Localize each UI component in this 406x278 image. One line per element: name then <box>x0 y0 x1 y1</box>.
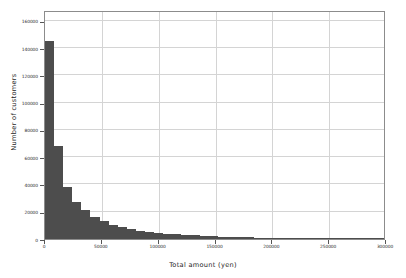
y-tick-label: 0 <box>35 238 38 243</box>
histogram-bar <box>209 236 218 239</box>
histogram-bar <box>81 210 90 239</box>
histogram-bar <box>318 238 327 239</box>
x-tick-label: 50000 <box>94 244 107 249</box>
histogram-figure: 0200004000060000800001000001200001400001… <box>0 0 406 278</box>
histogram-bar <box>218 237 227 239</box>
x-tick-label: 100000 <box>150 244 166 249</box>
histogram-bar <box>72 202 81 239</box>
y-tick-mark <box>40 76 44 77</box>
histogram-bar <box>345 238 354 239</box>
histogram-bar <box>181 235 190 239</box>
x-tick-label: 250000 <box>320 244 336 249</box>
x-axis-title: Total amount (yen) <box>0 261 406 269</box>
y-tick-label: 140000 <box>22 47 38 52</box>
histogram-bar <box>354 238 363 239</box>
y-tick-label: 40000 <box>25 183 38 188</box>
y-axis-title: Number of customers <box>10 52 18 172</box>
histogram-bar <box>263 238 272 239</box>
histogram-bar <box>336 238 345 239</box>
histogram-bar <box>100 221 109 239</box>
histogram-bar <box>300 238 309 239</box>
y-tick-label: 120000 <box>22 74 38 79</box>
histogram-bar <box>272 238 281 239</box>
y-tick-label: 100000 <box>22 101 38 106</box>
histogram-bar <box>45 41 54 239</box>
y-tick-label: 80000 <box>25 128 38 133</box>
histogram-bar <box>363 238 372 239</box>
x-tick-label: 300000 <box>377 244 393 249</box>
histogram-bar <box>154 233 163 239</box>
histogram-bar <box>254 238 263 239</box>
histogram-bar <box>281 238 290 239</box>
histogram-bar <box>163 234 172 239</box>
y-tick-label: 60000 <box>25 156 38 161</box>
y-tick-mark <box>40 22 44 23</box>
y-tick-mark <box>40 185 44 186</box>
histogram-bar <box>327 238 336 239</box>
histogram-bar <box>381 238 385 239</box>
y-tick-label: 160000 <box>22 19 38 24</box>
histogram-bar <box>236 237 245 239</box>
histogram-bar <box>309 238 318 239</box>
histogram-bar <box>291 238 300 239</box>
histogram-bar <box>200 236 209 239</box>
histogram-bar <box>136 231 145 239</box>
histogram-bar <box>145 232 154 239</box>
x-tick-label: 150000 <box>206 244 222 249</box>
y-tick-mark <box>40 158 44 159</box>
histogram-bar <box>190 235 199 239</box>
histogram-bar <box>227 237 236 239</box>
x-tick-label: 200000 <box>263 244 279 249</box>
histogram-bar <box>372 238 381 239</box>
y-tick-mark <box>40 104 44 105</box>
histogram-bar <box>172 234 181 239</box>
plot-area <box>44 11 385 240</box>
x-tick-label: 0 <box>43 244 46 249</box>
y-tick-mark <box>40 49 44 50</box>
y-tick-mark <box>40 213 44 214</box>
histogram-bar <box>90 217 99 239</box>
histogram-bar <box>63 187 72 239</box>
y-tick-label: 20000 <box>25 210 38 215</box>
histogram-bar <box>109 225 118 239</box>
y-tick-mark <box>40 131 44 132</box>
histogram-bar <box>245 237 254 239</box>
histogram-bar <box>127 229 136 239</box>
histogram-bars <box>45 12 384 239</box>
histogram-bar <box>118 227 127 239</box>
histogram-bar <box>54 146 63 239</box>
